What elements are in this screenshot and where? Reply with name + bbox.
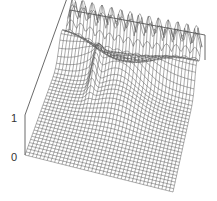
wireframe-mesh	[25, 0, 202, 192]
surface-plot	[0, 0, 217, 201]
z-tick-0: 0	[11, 152, 17, 163]
z-tick-1: 1	[11, 113, 17, 124]
